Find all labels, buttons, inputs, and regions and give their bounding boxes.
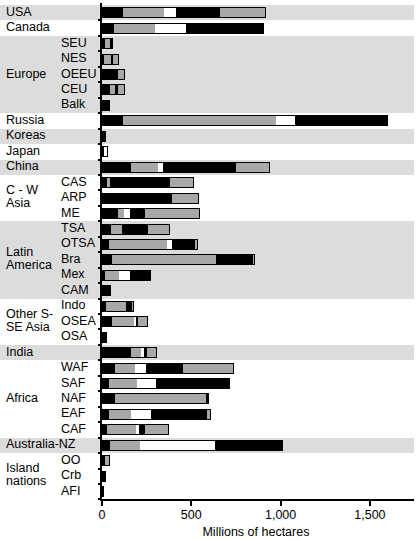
bar-segment [112,254,216,265]
bar-china[interactable] [102,162,270,173]
bar-segment [147,347,157,358]
x-axis-tick [101,501,103,506]
bar-afi[interactable] [102,486,104,497]
subregion-label-arp: ARP [61,191,87,203]
bar-segment [114,23,155,34]
bar-waf[interactable] [102,363,234,374]
bar-segment [102,363,115,374]
subregion-label-seu: SEU [61,37,87,49]
bar-segment [110,440,140,451]
bar-me[interactable] [102,208,200,219]
y-axis-tick [98,112,102,114]
bar-segment [195,239,198,250]
bar-cas[interactable] [102,177,194,188]
bar-segment [115,363,135,374]
bar-segment [131,162,158,173]
bar-segment [216,254,253,265]
bar-segment [102,208,118,219]
bar-balk[interactable] [102,100,110,111]
bar-segment [109,409,131,420]
bar-canada[interactable] [102,23,264,34]
bar-indo[interactable] [102,301,134,312]
bar-segment [146,363,183,374]
bar-koreas[interactable] [102,131,106,142]
subregion-label-balk: Balk [61,98,85,110]
y-axis-tick [98,159,102,161]
bar-segment [236,162,270,173]
bar-segment [295,115,388,126]
bar-segment [215,440,283,451]
bar-segment [102,393,115,404]
y-axis-tick [98,220,102,222]
y-axis-tick [98,97,102,99]
bar-segment [111,224,122,235]
subregion-label-crb: Crb [61,469,81,481]
x-axis-tick-label: 500 [161,508,221,522]
bar-segment [172,193,199,204]
bar-australia-nz[interactable] [102,440,283,451]
bar-segment [131,409,151,420]
subregion-label-afi: AFI [61,485,80,497]
bar-oeeu[interactable] [102,69,125,80]
y-axis-tick [98,251,102,253]
y-axis-tick [98,452,102,454]
bar-osea[interactable] [102,316,148,327]
bar-seu[interactable] [102,38,113,49]
row-band [0,345,414,360]
bar-segment [140,440,215,451]
region-label-usa: USA [6,6,32,18]
bar-segment [220,7,266,18]
bar-segment [102,347,131,358]
bar-segment [145,424,169,435]
bar-segment [137,378,156,389]
bar-nes[interactable] [102,54,119,65]
y-axis-tick [98,313,102,315]
bar-segment [163,162,236,173]
subregion-label-nes: NES [61,52,87,64]
bar-segment [104,193,172,204]
bar-japan[interactable] [102,146,108,157]
bar-tsa[interactable] [102,224,170,235]
bar-segment [102,69,112,80]
bar-osa[interactable] [102,332,107,343]
x-axis-line [100,499,414,501]
bar-mex[interactable] [102,270,151,281]
bar-russia[interactable] [102,115,388,126]
bar-segment [102,440,110,451]
bar-crb[interactable] [102,471,106,482]
bar-segment [102,316,112,327]
y-axis-tick [98,298,102,300]
bar-segment [102,486,104,497]
bar-segment [102,7,123,18]
subregion-label-otsa: OTSA [61,237,95,249]
bar-segment [132,301,134,312]
bar-ceu[interactable] [102,84,125,95]
bar-otsa[interactable] [102,239,198,250]
bar-naf[interactable] [102,393,209,404]
y-axis-tick [98,483,102,485]
bar-oo[interactable] [102,455,110,466]
bar-caf[interactable] [102,424,169,435]
region-label-china: China [6,160,39,172]
region-label-japan: Japan [6,145,40,157]
bar-segment [102,224,111,235]
bar-bra[interactable] [102,254,255,265]
bar-saf[interactable] [102,378,230,389]
subregion-label-cas: CAS [61,176,87,188]
x-axis-tick [369,501,371,506]
bar-eaf[interactable] [102,409,211,420]
group-label: Africa [6,392,38,405]
bar-segment [104,54,111,65]
bar-segment [183,363,234,374]
x-axis-tick-label: 0 [72,508,132,522]
bar-segment [207,409,211,420]
region-label-russia: Russia [6,114,44,126]
bar-india[interactable] [102,347,157,358]
bar-segment [105,270,119,281]
bar-usa[interactable] [102,7,266,18]
bar-cam[interactable] [102,285,111,296]
bar-arp[interactable] [102,193,199,204]
bar-segment [112,316,134,327]
group-label: LatinAmerica [6,246,52,272]
bar-segment [170,177,194,188]
